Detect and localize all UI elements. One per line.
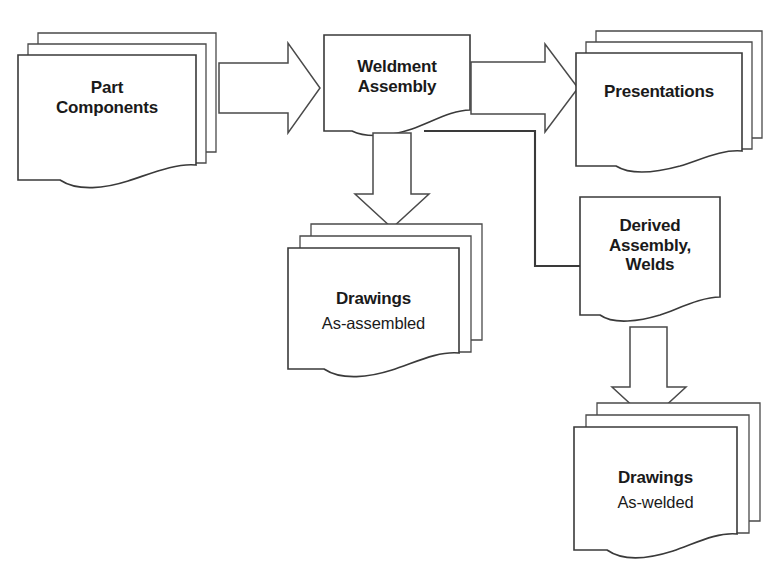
part-components-sheet-front	[18, 55, 196, 188]
node-drawings-as-welded[interactable]	[574, 403, 760, 558]
node-presentations[interactable]	[576, 31, 762, 172]
block-arrow-down-icon	[355, 133, 429, 228]
node-weldment-assembly[interactable]	[324, 35, 470, 135]
node-derived-assembly-welds[interactable]	[580, 197, 720, 321]
node-part-components[interactable]	[18, 33, 216, 188]
weldment-assembly-sheet	[324, 35, 470, 135]
block-arrow-right-icon	[219, 43, 320, 133]
arrow-weldment-to-drawings-assembled	[355, 133, 429, 228]
node-drawings-as-assembled[interactable]	[288, 224, 482, 377]
arrow-weldment-to-presentations	[471, 44, 578, 132]
flow-diagram-svg	[0, 0, 779, 572]
drawings-assembled-sheet-front	[288, 248, 459, 377]
block-arrow-right-icon	[471, 44, 578, 132]
diagram-canvas: Part Components Weldment Assembly Presen…	[0, 0, 779, 572]
presentations-sheet-front	[576, 53, 742, 172]
derived-assembly-sheet	[580, 197, 720, 321]
drawings-welded-sheet-front	[574, 427, 737, 558]
arrow-part-to-weldment	[219, 43, 320, 133]
